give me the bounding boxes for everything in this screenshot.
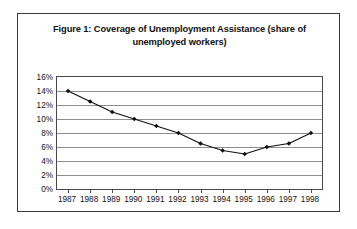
data-point-marker bbox=[264, 145, 269, 150]
x-axis-labels: 1987198819891990199119921993199419951996… bbox=[56, 195, 323, 209]
x-axis-tick-mark bbox=[178, 189, 179, 193]
x-axis-tick-mark bbox=[223, 189, 224, 193]
data-point-marker bbox=[242, 152, 247, 157]
y-axis-tick-label: 14% bbox=[19, 87, 53, 96]
y-axis-tick-label: 10% bbox=[19, 115, 53, 124]
y-axis-tick-label: 2% bbox=[19, 171, 53, 180]
data-point-marker bbox=[66, 89, 71, 94]
y-axis-tick-label: 0% bbox=[19, 185, 53, 194]
data-point-marker bbox=[110, 110, 115, 115]
x-axis-tick-mark bbox=[112, 189, 113, 193]
data-point-marker bbox=[132, 117, 137, 122]
data-point-marker bbox=[88, 99, 93, 104]
data-point-marker bbox=[287, 141, 292, 146]
x-axis-tick-mark bbox=[156, 189, 157, 193]
x-axis-tick-mark bbox=[289, 189, 290, 193]
y-axis-tick-label: 16% bbox=[19, 73, 53, 82]
y-axis-tick-label: 4% bbox=[19, 157, 53, 166]
y-axis-tick-label: 12% bbox=[19, 101, 53, 110]
x-axis-tick-label: 1998 bbox=[295, 195, 325, 204]
data-point-marker bbox=[154, 124, 159, 129]
x-axis-tick-mark bbox=[311, 189, 312, 193]
chart-title: Figure 1: Coverage of Unemployment Assis… bbox=[38, 23, 321, 48]
data-point-marker bbox=[220, 148, 225, 153]
data-point-marker bbox=[176, 131, 181, 136]
x-axis-tick-mark bbox=[68, 189, 69, 193]
y-axis-tick-label: 6% bbox=[19, 143, 53, 152]
y-axis-labels: 16%14%12%10%8%6%4%2%0% bbox=[18, 76, 53, 190]
data-point-marker bbox=[309, 131, 314, 136]
x-axis-tick-mark bbox=[201, 189, 202, 193]
data-point-marker bbox=[198, 141, 203, 146]
data-series bbox=[57, 77, 322, 189]
series-line bbox=[68, 91, 311, 154]
y-axis-tick-label: 8% bbox=[19, 129, 53, 138]
x-axis-tick-mark bbox=[134, 189, 135, 193]
x-axis-tick-mark bbox=[90, 189, 91, 193]
plot-area bbox=[56, 76, 323, 190]
x-axis-tick-mark bbox=[245, 189, 246, 193]
figure-container: Figure 1: Coverage of Unemployment Assis… bbox=[17, 13, 340, 212]
x-axis-tick-mark bbox=[267, 189, 268, 193]
